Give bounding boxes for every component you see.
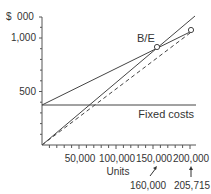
x-axis-title: Units: [107, 166, 130, 177]
arrow-205k-head: [189, 166, 193, 170]
y-unit-label: $ 000: [6, 11, 34, 22]
x-ticks: [49, 145, 190, 149]
revenue-line: [42, 16, 195, 145]
dashed-line: [42, 30, 194, 145]
second-marker: [188, 27, 193, 32]
breakeven-marker: [154, 44, 159, 49]
total-cost-line: [42, 30, 194, 105]
breakeven-chart: $ 000 1,000 500 50,000 100,000 150,000 2…: [0, 0, 211, 194]
x-tick-label-50k: 50,000: [65, 153, 96, 164]
y-tick-label-1000: 1,000: [11, 32, 36, 43]
x-tick-label-200k: 200,000: [173, 153, 210, 164]
x-tick-label-150k: 150,000: [136, 153, 173, 164]
fixed-costs-label: Fixed costs: [138, 108, 194, 120]
y-tick-label-500: 500: [19, 86, 36, 97]
breakeven-label: B/E: [137, 32, 155, 44]
x-tick-label-100k: 100,000: [99, 153, 136, 164]
marker-label-160000: 160,000: [130, 180, 167, 191]
marker-label-205715: 205,715: [174, 180, 211, 191]
